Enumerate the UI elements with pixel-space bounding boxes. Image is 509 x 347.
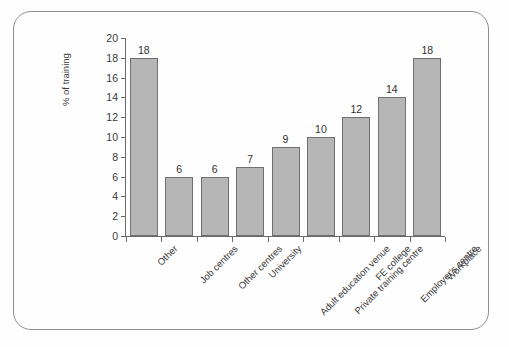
x-tick-mark (303, 237, 304, 242)
bar-value-label: 10 (315, 123, 327, 135)
bar-value-label: 18 (421, 44, 433, 56)
y-tick-label: 4 (112, 190, 118, 202)
x-tick-mark (126, 237, 127, 242)
y-tick-label: 0 (112, 230, 118, 242)
y-tick-mark (121, 196, 126, 197)
x-tick-mark (268, 237, 269, 242)
y-tick-label: 6 (112, 171, 118, 183)
y-tick-mark (121, 78, 126, 79)
y-tick-mark (121, 177, 126, 178)
chart-page: % of training 02468101214161820 18667910… (0, 0, 509, 347)
plot-area: 02468101214161820 18667910121418 OtherJo… (126, 38, 445, 236)
y-tick-mark (121, 216, 126, 217)
y-tick-mark (121, 97, 126, 98)
y-tick-label: 20 (106, 32, 118, 44)
x-tick-mark (445, 237, 446, 242)
bar-value-label: 7 (247, 153, 253, 165)
bar-value-label: 18 (138, 44, 150, 56)
bar: 7 (236, 167, 264, 236)
y-axis-title: % of training (60, 53, 71, 106)
x-tick-mark (161, 237, 162, 242)
y-tick-label: 18 (106, 52, 118, 64)
x-tick-mark (232, 237, 233, 242)
x-tick-mark (197, 237, 198, 242)
bar: 12 (342, 117, 370, 236)
bar-value-label: 14 (386, 83, 398, 95)
y-tick-label: 10 (106, 131, 118, 143)
bar-value-label: 6 (212, 163, 218, 175)
bar-value-label: 6 (176, 163, 182, 175)
y-tick-label: 16 (106, 72, 118, 84)
bar: 6 (165, 177, 193, 236)
y-tick-label: 12 (106, 111, 118, 123)
bar: 18 (130, 58, 158, 236)
y-tick-mark (121, 137, 126, 138)
y-tick-mark (121, 157, 126, 158)
bar: 18 (413, 58, 441, 236)
bar-value-label: 9 (283, 133, 289, 145)
bar: 10 (307, 137, 335, 236)
bar: 9 (272, 147, 300, 236)
x-tick-mark (410, 237, 411, 242)
x-axis-line (125, 236, 445, 237)
y-tick-label: 14 (106, 91, 118, 103)
y-tick-mark (121, 58, 126, 59)
y-tick-mark (121, 38, 126, 39)
bar: 14 (378, 97, 406, 236)
y-tick-label: 2 (112, 210, 118, 222)
bar: 6 (201, 177, 229, 236)
y-tick-mark (121, 117, 126, 118)
x-tick-mark (339, 237, 340, 242)
x-tick-mark (374, 237, 375, 242)
y-tick-label: 8 (112, 151, 118, 163)
bar-value-label: 12 (351, 103, 363, 115)
